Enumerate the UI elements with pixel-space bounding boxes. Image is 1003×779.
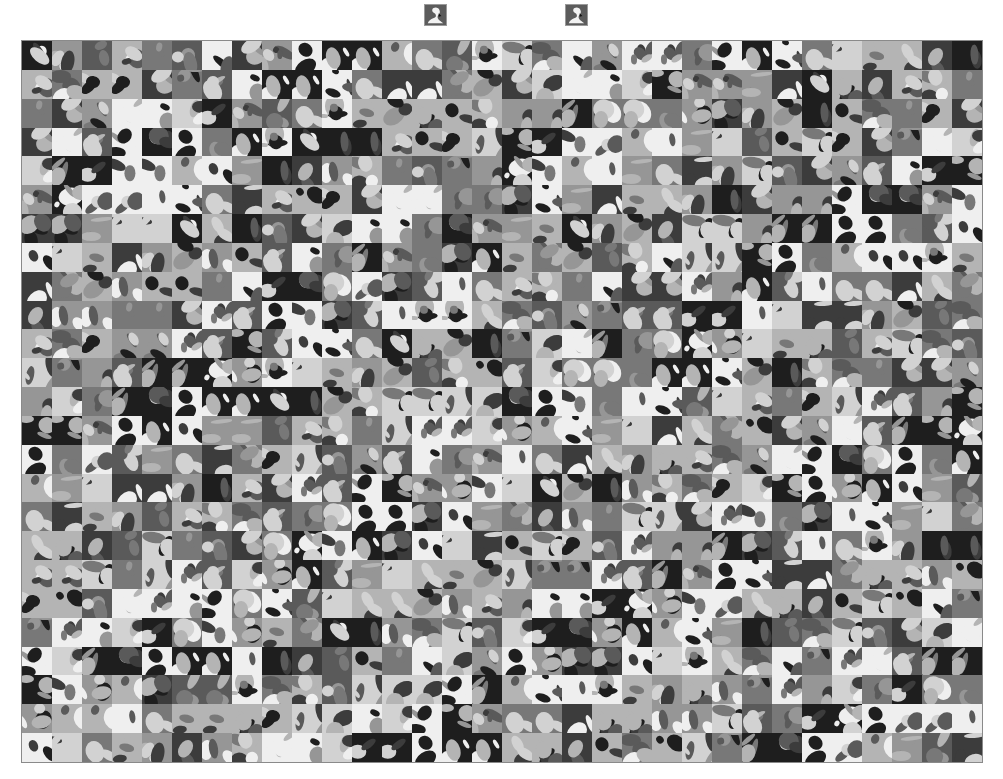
bird-thumbnail[interactable] (622, 329, 652, 358)
bird-thumbnail[interactable] (712, 243, 742, 272)
bird-thumbnail[interactable] (112, 618, 142, 647)
bird-thumbnail[interactable] (142, 358, 172, 387)
bird-thumbnail[interactable] (652, 675, 682, 704)
bird-thumbnail[interactable] (592, 41, 622, 70)
bird-thumbnail[interactable] (622, 416, 652, 445)
bird-thumbnail[interactable] (562, 416, 592, 445)
bird-thumbnail[interactable] (22, 474, 52, 503)
bird-thumbnail[interactable] (922, 214, 952, 243)
bird-thumbnail[interactable] (922, 70, 952, 99)
bird-thumbnail[interactable] (322, 70, 352, 99)
bird-thumbnail[interactable] (442, 99, 472, 128)
bird-thumbnail[interactable] (862, 704, 892, 733)
bird-thumbnail[interactable] (202, 243, 232, 272)
bird-thumbnail[interactable] (622, 733, 652, 762)
bird-thumbnail[interactable] (622, 301, 652, 330)
bird-thumbnail[interactable] (712, 185, 742, 214)
bird-thumbnail[interactable] (592, 128, 622, 157)
bird-thumbnail[interactable] (412, 675, 442, 704)
bird-thumbnail[interactable] (682, 70, 712, 99)
bird-thumbnail[interactable] (52, 329, 82, 358)
bird-thumbnail[interactable] (172, 358, 202, 387)
bird-thumbnail[interactable] (352, 416, 382, 445)
bird-thumbnail[interactable] (742, 70, 772, 99)
bird-thumbnail[interactable] (82, 358, 112, 387)
bird-thumbnail[interactable] (412, 358, 442, 387)
bird-thumbnail[interactable] (652, 156, 682, 185)
bird-thumbnail[interactable] (772, 560, 802, 589)
bird-thumbnail[interactable] (562, 358, 592, 387)
bird-thumbnail[interactable] (22, 70, 52, 99)
bird-thumbnail[interactable] (82, 618, 112, 647)
bird-thumbnail[interactable] (622, 647, 652, 676)
bird-thumbnail[interactable] (142, 733, 172, 762)
bird-thumbnail[interactable] (412, 70, 442, 99)
bird-thumbnail[interactable] (922, 41, 952, 70)
bird-thumbnail[interactable] (832, 99, 862, 128)
bird-thumbnail[interactable] (622, 243, 652, 272)
bird-thumbnail[interactable] (742, 41, 772, 70)
bird-thumbnail[interactable] (562, 560, 592, 589)
bird-thumbnail[interactable] (502, 589, 532, 618)
bird-thumbnail[interactable] (172, 70, 202, 99)
bird-thumbnail[interactable] (682, 358, 712, 387)
bird-thumbnail[interactable] (202, 445, 232, 474)
bird-thumbnail[interactable] (52, 185, 82, 214)
bird-thumbnail[interactable] (352, 502, 382, 531)
bird-thumbnail[interactable] (742, 243, 772, 272)
bird-thumbnail[interactable] (202, 214, 232, 243)
bird-thumbnail[interactable] (352, 243, 382, 272)
bird-thumbnail[interactable] (862, 301, 892, 330)
bird-thumbnail[interactable] (622, 358, 652, 387)
bird-thumbnail[interactable] (52, 445, 82, 474)
bird-thumbnail[interactable] (22, 358, 52, 387)
bird-thumbnail[interactable] (412, 502, 442, 531)
bird-thumbnail[interactable] (262, 99, 292, 128)
bird-thumbnail[interactable] (22, 445, 52, 474)
bird-thumbnail[interactable] (232, 185, 262, 214)
bird-thumbnail[interactable] (832, 416, 862, 445)
bird-thumbnail[interactable] (922, 704, 952, 733)
bird-thumbnail[interactable] (142, 589, 172, 618)
bird-thumbnail[interactable] (412, 387, 442, 416)
bird-thumbnail[interactable] (292, 560, 322, 589)
bird-thumbnail[interactable] (112, 41, 142, 70)
bird-thumbnail[interactable] (502, 733, 532, 762)
bird-thumbnail[interactable] (742, 618, 772, 647)
bird-thumbnail[interactable] (412, 531, 442, 560)
bird-thumbnail[interactable] (772, 243, 802, 272)
bird-thumbnail[interactable] (892, 387, 922, 416)
bird-thumbnail[interactable] (862, 445, 892, 474)
bird-thumbnail[interactable] (82, 474, 112, 503)
bird-thumbnail[interactable] (202, 387, 232, 416)
bird-thumbnail[interactable] (382, 531, 412, 560)
bird-thumbnail[interactable] (802, 445, 832, 474)
bird-thumbnail[interactable] (52, 474, 82, 503)
bird-thumbnail[interactable] (802, 416, 832, 445)
bird-thumbnail[interactable] (742, 560, 772, 589)
bird-thumbnail[interactable] (922, 99, 952, 128)
bird-thumbnail[interactable] (322, 128, 352, 157)
bird-thumbnail[interactable] (112, 502, 142, 531)
bird-thumbnail[interactable] (262, 618, 292, 647)
bird-thumbnail[interactable] (442, 704, 472, 733)
bird-thumbnail[interactable] (922, 474, 952, 503)
bird-thumbnail[interactable] (322, 329, 352, 358)
bird-thumbnail[interactable] (382, 733, 412, 762)
bird-thumbnail[interactable] (382, 41, 412, 70)
bird-thumbnail[interactable] (82, 214, 112, 243)
bird-thumbnail[interactable] (952, 185, 982, 214)
bird-thumbnail[interactable] (742, 531, 772, 560)
bird-thumbnail[interactable] (592, 416, 622, 445)
bird-thumbnail[interactable] (472, 675, 502, 704)
bird-thumbnail[interactable] (82, 185, 112, 214)
bird-thumbnail[interactable] (622, 272, 652, 301)
bird-thumbnail[interactable] (442, 647, 472, 676)
bird-thumbnail[interactable] (772, 99, 802, 128)
bird-thumbnail[interactable] (622, 156, 652, 185)
bird-thumbnail[interactable] (112, 99, 142, 128)
bird-thumbnail[interactable] (622, 704, 652, 733)
bird-thumbnail[interactable] (442, 128, 472, 157)
bird-thumbnail[interactable] (82, 128, 112, 157)
bird-thumbnail[interactable] (712, 301, 742, 330)
